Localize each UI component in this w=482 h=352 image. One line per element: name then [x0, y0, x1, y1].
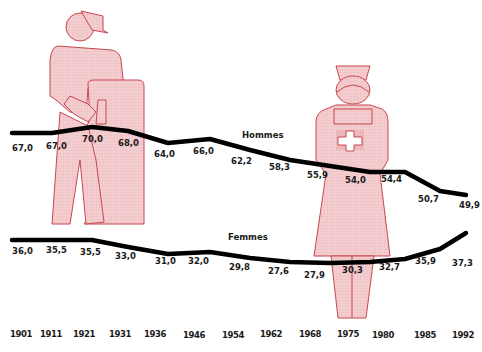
x-tick-label: 1921	[73, 329, 96, 339]
value-label: 36,0	[12, 246, 33, 256]
value-label: 67,0	[46, 141, 67, 151]
x-tick-label: 1931	[109, 329, 132, 339]
nurse-figure-icon	[314, 66, 390, 318]
value-label: 67,0	[12, 143, 33, 153]
value-label: 32,7	[379, 262, 400, 272]
femmes-series-label: Femmes	[228, 232, 268, 242]
value-label: 49,9	[459, 200, 480, 210]
hommes-series-label: Hommes	[242, 130, 284, 140]
value-label: 54,0	[345, 175, 366, 185]
x-tick-label: 1901	[10, 329, 33, 339]
value-label: 35,5	[80, 247, 101, 257]
value-label: 29,8	[229, 262, 250, 272]
x-tick-label: 1975	[337, 329, 360, 339]
x-tick-label: 1980	[372, 330, 395, 340]
value-label: 33,0	[115, 251, 136, 261]
value-label: 35,9	[415, 256, 436, 266]
x-tick-label: 1962	[260, 329, 283, 339]
value-label: 27,6	[268, 266, 289, 276]
worker-figure-icon	[50, 11, 144, 224]
x-tick-label: 1992	[452, 330, 475, 340]
x-tick-label: 1968	[299, 329, 322, 339]
x-tick-label: 1985	[414, 330, 437, 340]
value-label: 35,5	[46, 245, 67, 255]
x-tick-label: 1911	[40, 329, 63, 339]
line-chart: Hommes Femmes 67,0 67,0 70,0 68,0 64,0 6…	[0, 0, 482, 352]
value-label: 62,2	[231, 156, 252, 166]
x-tick-label: 1946	[183, 330, 206, 340]
value-label: 55,9	[307, 170, 328, 180]
x-tick-label: 1954	[222, 330, 245, 340]
value-label: 27,9	[304, 270, 325, 280]
value-label: 54,4	[381, 174, 402, 184]
value-label: 30,3	[342, 265, 363, 275]
value-label: 64,0	[154, 149, 175, 159]
value-label: 32,0	[188, 256, 209, 266]
value-label: 68,0	[118, 138, 139, 148]
x-tick-label: 1936	[144, 329, 167, 339]
value-label: 37,3	[452, 258, 473, 268]
value-label: 31,0	[155, 256, 176, 266]
value-label: 70,0	[82, 134, 103, 144]
value-label: 58,3	[269, 162, 290, 172]
red-cross-icon	[336, 130, 364, 151]
value-label: 66,0	[193, 146, 214, 156]
femmes-value-labels: 36,0 35,5 35,5 33,0 31,0 32,0 29,8 27,6 …	[12, 245, 473, 280]
value-label: 50,7	[418, 194, 439, 204]
x-axis-labels: 1901 1911 1921 1931 1936 1946 1954 1962 …	[10, 329, 475, 340]
